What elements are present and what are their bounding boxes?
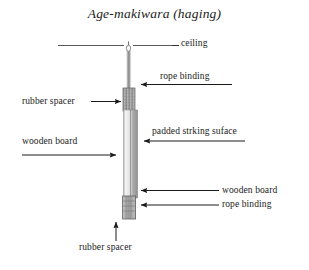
label-ceiling: ceiling xyxy=(181,39,208,49)
label-wooden-board-left: wooden board xyxy=(22,137,77,147)
label-rope-binding-top: rope binding xyxy=(160,72,209,82)
hanging-rope xyxy=(127,51,130,89)
ceiling-hook-icon xyxy=(126,42,130,52)
makiwara-figure: Age-makiwara (haging) xyxy=(0,0,309,270)
rope-binding-upper-block xyxy=(123,88,135,111)
wooden-board-strip xyxy=(124,110,131,198)
label-wooden-board-right: wooden board xyxy=(222,186,277,196)
label-padded-striking-surface: padded strking suface xyxy=(152,127,237,137)
label-rubber-spacer-top: rubber spacer xyxy=(22,97,75,107)
rubber-spacer-lower-block xyxy=(123,196,136,219)
label-rubber-spacer-bottom: rubber spacer xyxy=(79,243,132,253)
padded-striking-surface-strip xyxy=(131,110,138,198)
label-rope-binding-bottom: rope binding xyxy=(222,200,271,210)
